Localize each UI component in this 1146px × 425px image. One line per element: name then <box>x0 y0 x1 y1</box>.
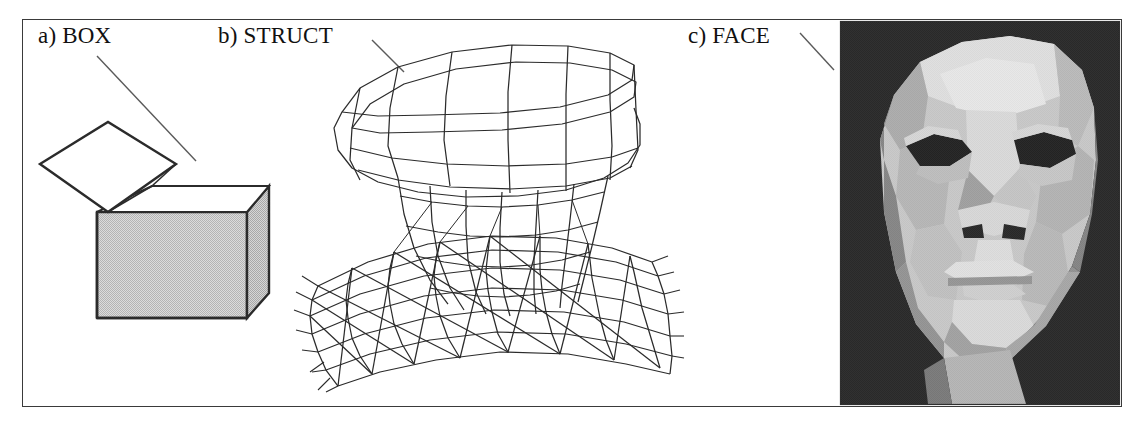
panel-label-box: a) BOX <box>38 24 111 47</box>
panel-label-struct: b) STRUCT <box>218 24 333 47</box>
figure-frame-border <box>22 19 1122 407</box>
figure-root: a) BOX b) STRUCT c) FACE <box>0 0 1146 425</box>
panel-label-face: c) FACE <box>688 24 770 47</box>
